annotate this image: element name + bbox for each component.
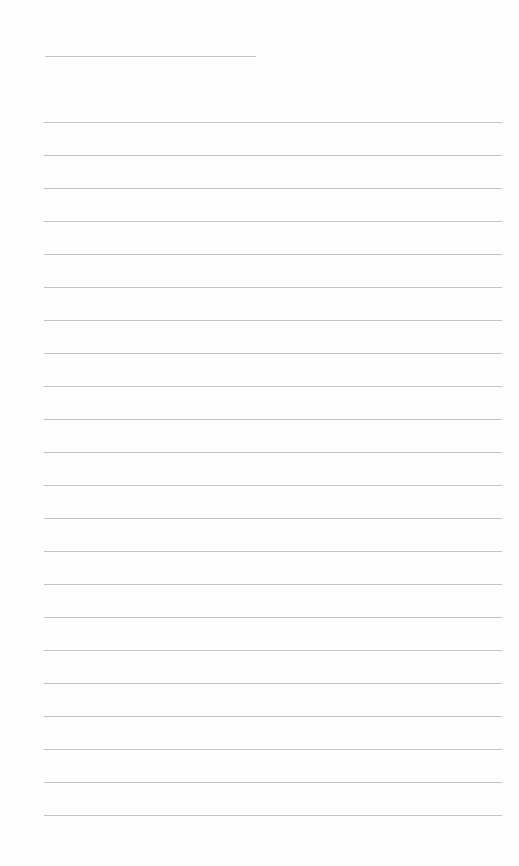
ruled-line: [44, 749, 502, 750]
ruled-line: [44, 518, 502, 519]
lined-paper: [0, 0, 519, 866]
ruled-line: [44, 221, 502, 222]
ruled-line: [44, 254, 502, 255]
ruled-line: [44, 122, 502, 123]
ruled-line: [44, 419, 502, 420]
ruled-line: [44, 353, 502, 354]
ruled-line: [44, 386, 502, 387]
title-line: [45, 56, 256, 57]
ruled-line: [44, 782, 502, 783]
ruled-line: [44, 551, 502, 552]
ruled-line: [44, 584, 502, 585]
ruled-line: [44, 155, 502, 156]
ruled-line: [44, 188, 502, 189]
ruled-line: [44, 683, 502, 684]
ruled-line: [44, 320, 502, 321]
ruled-line: [44, 287, 502, 288]
ruled-line: [44, 452, 502, 453]
ruled-line: [44, 485, 502, 486]
ruled-line: [44, 716, 502, 717]
ruled-line: [44, 617, 502, 618]
ruled-line: [44, 650, 502, 651]
ruled-line: [44, 815, 502, 816]
